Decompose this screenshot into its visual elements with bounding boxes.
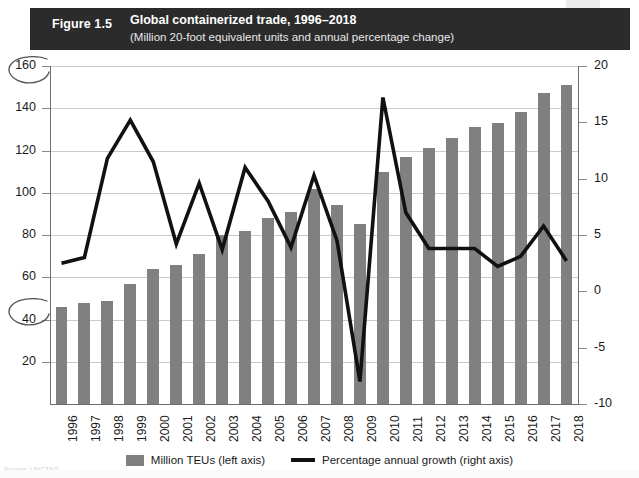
x-axis-label-2018: 2018 bbox=[572, 415, 586, 442]
y-axis-right-tick bbox=[579, 66, 587, 67]
y-axis-left-tick-label: 80 bbox=[2, 227, 36, 241]
x-axis-label-2011: 2011 bbox=[411, 416, 425, 442]
y-axis-left-tick-label: 140 bbox=[2, 100, 36, 114]
bar-swatch-icon bbox=[126, 455, 144, 466]
y-axis-left-tick-label: 160 bbox=[2, 58, 36, 72]
x-axis-label-2003: 2003 bbox=[227, 415, 241, 442]
x-axis-label-1997: 1997 bbox=[89, 415, 103, 442]
legend-label-percentage-growth: Percentage annual growth (right axis) bbox=[322, 454, 513, 466]
y-axis-left-tick-label: 40 bbox=[2, 312, 36, 326]
x-axis-label-2007: 2007 bbox=[319, 415, 333, 442]
y-axis-right-tick-label: -10 bbox=[594, 396, 628, 410]
y-axis-right-tick bbox=[579, 348, 587, 349]
x-axis-label-2005: 2005 bbox=[273, 415, 287, 442]
x-axis-label-2000: 2000 bbox=[158, 415, 172, 442]
x-axis-label-2002: 2002 bbox=[204, 415, 218, 442]
legend-item-percentage-growth: Percentage annual growth (right axis) bbox=[291, 454, 513, 466]
y-axis-right-tick bbox=[579, 404, 587, 405]
y-axis-right-tick bbox=[579, 179, 587, 180]
y-axis-right-tick-label: 0 bbox=[594, 283, 628, 297]
x-axis-label-2017: 2017 bbox=[549, 415, 563, 442]
x-axis-label-2008: 2008 bbox=[342, 415, 356, 442]
y-axis-left-tick-label: 100 bbox=[2, 185, 36, 199]
x-axis-label-2010: 2010 bbox=[388, 415, 402, 442]
y-axis-right-tick bbox=[579, 122, 587, 123]
x-axis-label-2015: 2015 bbox=[503, 415, 517, 442]
x-axis-labels: 1996199719981999200020012002200320042005… bbox=[50, 406, 578, 448]
y-axis-left-tick bbox=[42, 151, 50, 152]
x-axis-label-2006: 2006 bbox=[296, 415, 310, 442]
line-series-percentage-growth bbox=[50, 66, 578, 404]
legend-label-million-teus: Million TEUs (left axis) bbox=[151, 454, 265, 466]
y-axis-left-tick-label: 120 bbox=[2, 143, 36, 157]
y-axis-left-tick bbox=[42, 108, 50, 109]
y-axis-left-tick bbox=[42, 362, 50, 363]
y-axis-right-tick-label: 5 bbox=[594, 227, 628, 241]
y-axis-right-tick-label: 15 bbox=[594, 114, 628, 128]
y-axis-left-tick bbox=[42, 320, 50, 321]
x-axis-label-2009: 2009 bbox=[365, 415, 379, 442]
x-axis-label-2014: 2014 bbox=[480, 415, 494, 442]
chart-legend: Million TEUs (left axis) Percentage annu… bbox=[0, 450, 639, 470]
y-axis-right-tick-label: 20 bbox=[594, 58, 628, 72]
x-axis-label-1996: 1996 bbox=[66, 415, 80, 442]
y-axis-left-tick bbox=[42, 277, 50, 278]
x-axis-label-2016: 2016 bbox=[526, 415, 540, 442]
legend-item-million-teus: Million TEUs (left axis) bbox=[126, 454, 265, 466]
line-swatch-icon bbox=[291, 458, 315, 462]
x-axis-label-2001: 2001 bbox=[181, 415, 195, 442]
chart-figure: 20406080100120140160 -10-505101520 19961… bbox=[0, 0, 639, 478]
x-axis-label-1998: 1998 bbox=[112, 415, 126, 442]
y-axis-left-tick bbox=[42, 235, 50, 236]
y-axis-left-tick bbox=[42, 193, 50, 194]
y-axis-left-tick-label: 60 bbox=[2, 269, 36, 283]
y-axis-right-tick-label: -5 bbox=[594, 340, 628, 354]
page-edge bbox=[0, 470, 639, 478]
x-axis-label-2013: 2013 bbox=[457, 415, 471, 442]
y-axis-right-tick bbox=[579, 235, 587, 236]
y-axis-right-tick-label: 10 bbox=[594, 171, 628, 185]
x-axis-label-1999: 1999 bbox=[135, 415, 149, 442]
y-axis-left-tick bbox=[42, 66, 50, 67]
x-axis-label-2012: 2012 bbox=[434, 415, 448, 442]
y-axis-right-tick bbox=[579, 291, 587, 292]
x-axis-label-2004: 2004 bbox=[250, 415, 264, 442]
y-axis-left-tick-label: 20 bbox=[2, 354, 36, 368]
